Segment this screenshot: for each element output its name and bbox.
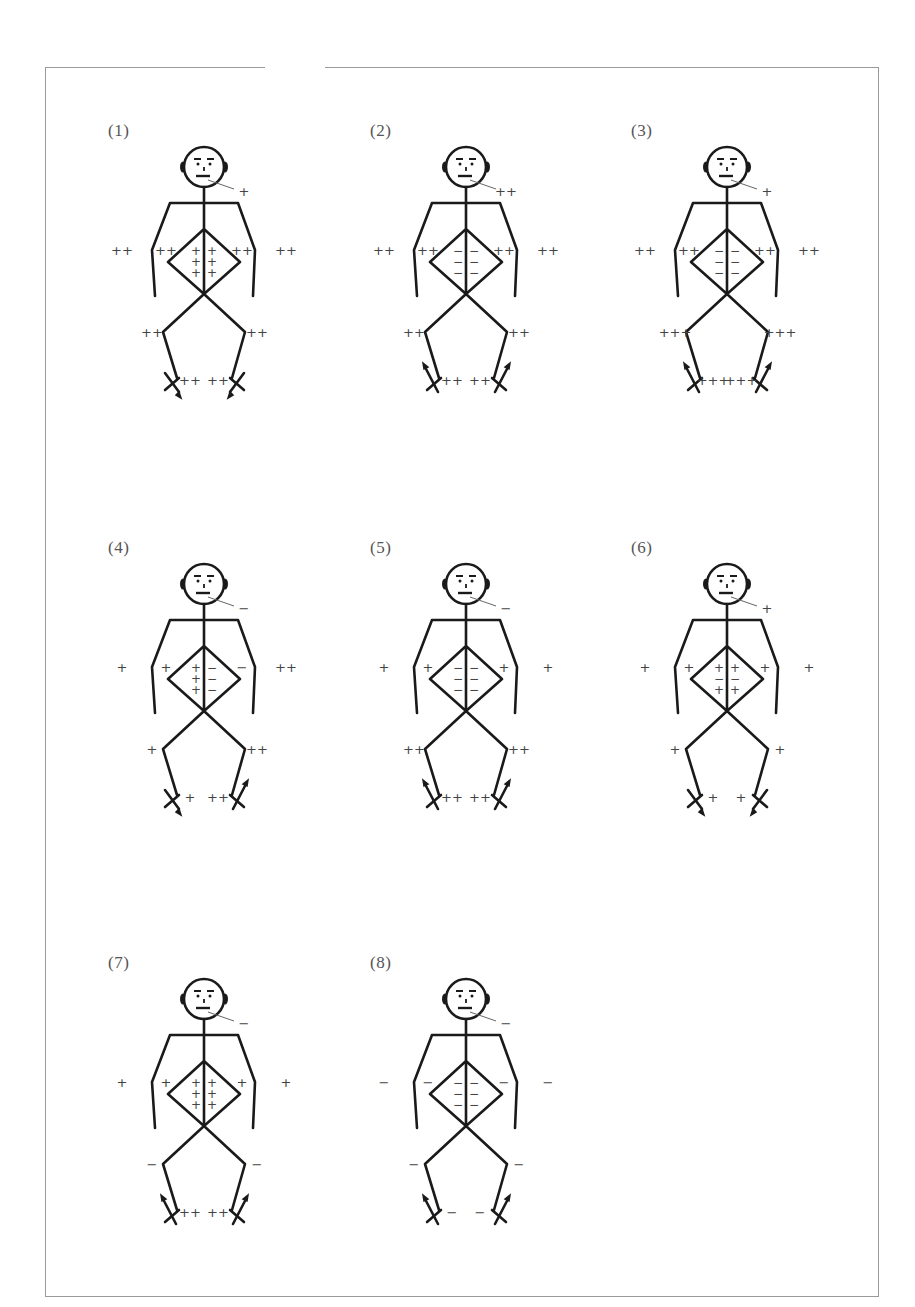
chest-right-marks: + + +: [206, 1078, 218, 1111]
chest-right-marks: − − −: [206, 663, 218, 696]
right-arm-inner-mark: ++: [754, 244, 776, 257]
right-foot-mark: ++: [469, 374, 491, 387]
right-arm-inner-mark: ++: [231, 244, 253, 257]
face-charge-mark: +: [762, 185, 773, 198]
body-outline: [152, 604, 255, 795]
right-foot-mark: −: [475, 1206, 486, 1219]
chest-right-marks: − − −: [468, 663, 480, 696]
chest-left-marks: − − −: [452, 246, 464, 279]
right-knee-mark: −: [514, 1158, 525, 1171]
figure-1: (1)++++++++++ + ++ + +++++++++: [100, 113, 330, 413]
left-arm-outer-mark: +: [117, 661, 128, 674]
left-foot-mark: ++: [441, 791, 463, 804]
body-outline: [152, 1019, 255, 1210]
right-arm-outer-mark: ++: [275, 661, 297, 674]
right-arm-outer-mark: +: [804, 661, 815, 674]
left-knee-mark: −: [147, 1158, 158, 1171]
figure-number-label: (3): [631, 121, 652, 141]
left-knee-mark: +: [147, 743, 158, 756]
right-foot-mark: ++: [207, 374, 229, 387]
face-charge-mark: −: [501, 1017, 512, 1030]
figure-number-label: (8): [370, 953, 391, 973]
figure-number-label: (2): [370, 121, 391, 141]
figure-number-label: (4): [108, 538, 129, 558]
left-knee-mark: +: [670, 743, 681, 756]
right-arm-inner-mark: +: [237, 1076, 248, 1089]
face-charge-mark: −: [501, 602, 512, 615]
right-arm-outer-mark: ++: [537, 244, 559, 257]
right-foot-mark: +: [736, 791, 747, 804]
figure-3: (3)+++++++++− − −− − −++++++++++++: [623, 113, 853, 413]
right-arm-outer-mark: +: [543, 661, 554, 674]
right-foot-mark: ++: [207, 791, 229, 804]
left-knee-mark: +++: [659, 326, 692, 339]
figure-8: (8)−−−−−− − −− − −−−−−: [362, 945, 592, 1245]
right-knee-mark: ++: [508, 743, 530, 756]
chest-left-marks: + + +: [190, 1078, 202, 1111]
face-charge-mark: −: [239, 1017, 250, 1030]
left-knee-mark: ++: [403, 326, 425, 339]
right-knee-mark: ++: [508, 326, 530, 339]
right-knee-mark: ++: [246, 326, 268, 339]
face-charge-mark: −: [239, 602, 250, 615]
left-arm-inner-mark: +: [161, 661, 172, 674]
figure-number-label: (1): [108, 121, 129, 141]
left-knee-mark: −: [409, 1158, 420, 1171]
chest-left-marks: − − −: [452, 663, 464, 696]
right-arm-outer-mark: −: [543, 1076, 554, 1089]
left-arm-inner-mark: ++: [155, 244, 177, 257]
left-arm-outer-mark: ++: [373, 244, 395, 257]
left-arm-inner-mark: +: [684, 661, 695, 674]
right-arm-outer-mark: ++: [798, 244, 820, 257]
left-arm-inner-mark: +: [423, 661, 434, 674]
face-charge-mark: ++: [495, 185, 517, 198]
figure-5: (5)−++++− − −− − −++++++++: [362, 530, 592, 830]
right-knee-mark: +: [775, 743, 786, 756]
chest-left-marks: + + +: [190, 663, 202, 696]
chest-left-marks: − − −: [452, 1078, 464, 1111]
figure-number-label: (7): [108, 953, 129, 973]
left-knee-mark: ++: [403, 743, 425, 756]
left-arm-outer-mark: ++: [634, 244, 656, 257]
left-arm-outer-mark: +: [379, 661, 390, 674]
body-outline: [414, 187, 517, 378]
left-foot-icon: [165, 790, 181, 815]
left-foot-mark: −: [447, 1206, 458, 1219]
left-arm-outer-mark: +: [117, 1076, 128, 1089]
face-charge-mark: +: [239, 185, 250, 198]
right-arm-inner-mark: +: [499, 661, 510, 674]
right-knee-mark: −: [252, 1158, 263, 1171]
frame-gap: [265, 64, 325, 70]
chest-right-marks: − − −: [468, 1078, 480, 1111]
figure-6: (6)++++++ − ++ − +++++: [623, 530, 853, 830]
body-outline: [675, 187, 778, 378]
body-outline: [414, 604, 517, 795]
left-arm-outer-mark: −: [379, 1076, 390, 1089]
left-arm-inner-mark: ++: [678, 244, 700, 257]
left-foot-mark: ++: [441, 374, 463, 387]
body-outline: [152, 187, 255, 378]
left-foot-mark: +: [708, 791, 719, 804]
right-arm-inner-mark: ++: [493, 244, 515, 257]
chest-right-marks: − − −: [729, 246, 741, 279]
body-outline: [675, 604, 778, 795]
right-arm-outer-mark: ++: [275, 244, 297, 257]
left-foot-icon: [688, 790, 704, 815]
right-arm-outer-mark: +: [281, 1076, 292, 1089]
face-charge-mark: +: [762, 602, 773, 615]
right-foot-icon: [228, 373, 244, 398]
figure-number-label: (6): [631, 538, 652, 558]
right-arm-inner-mark: −: [499, 1076, 510, 1089]
right-foot-icon: [751, 790, 767, 815]
chest-left-marks: + + +: [190, 246, 202, 279]
right-arm-inner-mark: +: [760, 661, 771, 674]
left-arm-outer-mark: +: [640, 661, 651, 674]
right-arm-inner-mark: −: [237, 661, 248, 674]
figure-number-label: (5): [370, 538, 391, 558]
body-outline: [414, 1019, 517, 1210]
right-foot-mark: +++: [725, 374, 758, 387]
left-knee-mark: ++: [141, 326, 163, 339]
figure-2: (2)++++++++++− − −− − −++++++++: [362, 113, 592, 413]
figure-4: (4)−++−+++ + +− − −++++++: [100, 530, 330, 830]
left-foot-mark: ++: [179, 1206, 201, 1219]
